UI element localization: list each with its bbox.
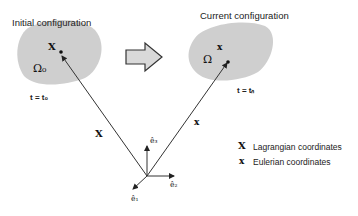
current-domain-label: Ω xyxy=(203,53,212,66)
current-configuration-blob xyxy=(189,22,273,80)
current-point-label: x xyxy=(217,42,222,52)
deformation-diagram: Initial configuration X Ω₀ t = t₀ Curren… xyxy=(0,0,358,216)
legend-lagrangian-label: Lagrangian coordinates xyxy=(253,142,342,152)
legend-lagrangian-symbol: X xyxy=(238,140,246,151)
legend-eulerian-symbol: x xyxy=(239,156,244,166)
lagrangian-position-vector xyxy=(62,56,147,176)
material-point-initial xyxy=(59,50,63,54)
basis-e2-label: ê₂ xyxy=(170,180,177,189)
initial-time-label: t = t₀ xyxy=(30,93,48,102)
legend-eulerian-label: Eulerian coordinates xyxy=(253,157,331,167)
current-time-label: t = tₙ xyxy=(237,86,254,95)
lagrangian-vector-label: X xyxy=(95,128,103,139)
current-configuration-title: Current configuration xyxy=(200,10,289,21)
basis-e1-arrow xyxy=(133,176,147,189)
basis-e1-label: ê₁ xyxy=(131,194,138,203)
basis-e3-label: ê₃ xyxy=(150,136,157,145)
diagram-graphics xyxy=(0,0,358,216)
initial-point-label: X xyxy=(48,41,56,52)
eulerian-vector-label: x xyxy=(194,117,199,127)
initial-configuration-title: Initial configuration xyxy=(12,17,91,28)
material-point-current xyxy=(226,60,230,64)
initial-domain-label: Ω₀ xyxy=(33,62,47,75)
transformation-arrow-icon xyxy=(126,43,162,71)
eulerian-position-vector xyxy=(147,63,227,176)
